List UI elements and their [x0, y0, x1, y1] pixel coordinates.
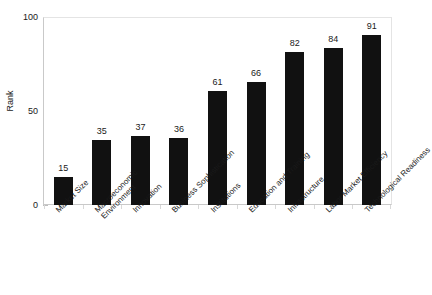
y-tick-label-0: 0: [12, 201, 38, 210]
bar-slot: 35: [83, 18, 122, 205]
bar-value-label: 91: [353, 22, 392, 31]
bar-value-label: 66: [237, 69, 276, 78]
bar[interactable]: [208, 91, 227, 205]
y-axis-title: Rank: [5, 76, 15, 126]
bar-value-label: 37: [121, 123, 160, 132]
bar-value-label: 82: [275, 39, 314, 48]
bar-slot: 36: [160, 18, 199, 205]
bar[interactable]: [247, 82, 266, 205]
bars-container: 153537366166828491: [44, 18, 391, 205]
bar-value-label: 36: [160, 125, 199, 134]
bar-slot: 15: [44, 18, 83, 205]
bar-value-label: 15: [44, 164, 83, 173]
x-axis-labels: Market SizeMacroeconomic EnvironmentInno…: [44, 208, 391, 294]
y-tick-label-50: 50: [12, 107, 38, 116]
y-tick-label-100: 100: [12, 13, 38, 22]
bar-value-label: 35: [83, 127, 122, 136]
bar[interactable]: [324, 48, 343, 205]
chart-title: [0, 0, 410, 3]
bar[interactable]: [285, 52, 304, 205]
bar-value-label: 61: [198, 78, 237, 87]
bar-value-label: 84: [314, 35, 353, 44]
bar-slot: 66: [237, 18, 276, 205]
